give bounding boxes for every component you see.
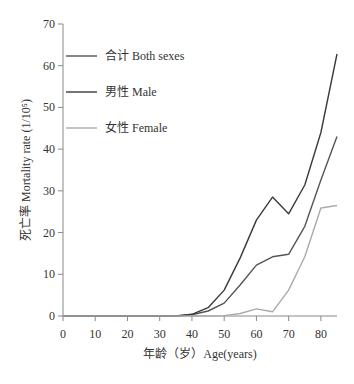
y-tick-label: 70 <box>43 17 55 31</box>
legend-label: 女性 Female <box>105 120 167 135</box>
y-ticks: 010203040506070 <box>43 17 63 323</box>
y-tick-label: 30 <box>43 184 55 198</box>
series-line <box>63 137 337 316</box>
x-tick-label: 20 <box>121 327 133 341</box>
series-line <box>63 206 337 317</box>
x-tick-label: 80 <box>315 327 327 341</box>
mortality-line-chart: 010203040506070 01020304050607080 合计 Bot… <box>0 0 354 384</box>
legend: 合计 Both sexes男性 Male女性 Female <box>66 48 185 135</box>
y-tick-label: 10 <box>43 267 55 281</box>
x-tick-label: 40 <box>186 327 198 341</box>
axes: 010203040506070 01020304050607080 <box>43 17 337 341</box>
x-tick-label: 10 <box>89 327 101 341</box>
legend-label: 男性 Male <box>105 85 157 99</box>
x-tick-label: 30 <box>154 327 166 341</box>
x-tick-label: 70 <box>283 327 295 341</box>
x-tick-label: 60 <box>250 327 262 341</box>
y-axis-title: 死亡率 Mortality rate (1/10⁵) <box>18 99 33 241</box>
y-tick-label: 20 <box>43 226 55 240</box>
x-tick-label: 0 <box>60 327 66 341</box>
x-tick-label: 50 <box>218 327 230 341</box>
legend-label: 合计 Both sexes <box>105 48 185 63</box>
y-tick-label: 40 <box>43 142 55 156</box>
y-tick-label: 50 <box>43 100 55 114</box>
y-tick-label: 0 <box>49 309 55 323</box>
y-tick-label: 60 <box>43 59 55 73</box>
x-axis-title: 年龄（岁）Age(years) <box>143 346 256 361</box>
x-ticks: 01020304050607080 <box>60 316 327 341</box>
